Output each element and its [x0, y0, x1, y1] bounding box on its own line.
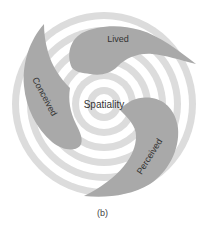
spatiality-swirl-graphic: Lived Conceived Perceived Spatiality	[0, 0, 205, 205]
center-label: Spatiality	[84, 99, 125, 110]
spatiality-diagram: Lived Conceived Perceived Spatiality (b)	[0, 0, 205, 228]
figure-caption: (b)	[0, 208, 205, 218]
blade-label-lived: Lived	[107, 34, 129, 44]
